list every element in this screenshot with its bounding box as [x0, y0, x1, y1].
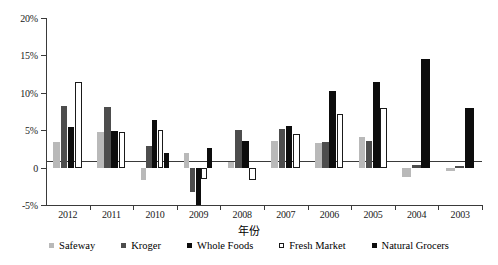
bar-kroger-2005: [366, 141, 373, 167]
legend-swatch-wholefoods-icon: [187, 243, 192, 248]
x-tick: [133, 205, 134, 210]
y-tick-label: 5%: [25, 125, 38, 136]
bar-safeway-2008: [228, 162, 235, 168]
bar-wholefoods-2005: [373, 82, 380, 168]
bar-freshmarket-2005: [380, 108, 387, 168]
y-tick-label: 20%: [20, 13, 38, 24]
y-tick: [41, 93, 46, 94]
legend-item-freshmarket[interactable]: Fresh Market: [279, 240, 345, 251]
bar-kroger-2008: [235, 130, 242, 167]
legend-swatch-safeway-icon: [49, 243, 54, 248]
x-tick: [220, 205, 221, 210]
bar-safeway-2005: [359, 137, 366, 168]
x-tick: [351, 205, 352, 210]
x-tick: [264, 205, 265, 210]
x-tick: [308, 205, 309, 210]
x-tick-label: 2012: [58, 209, 77, 220]
bar-safeway-2009: [184, 153, 189, 167]
x-tick-label: 2010: [145, 209, 164, 220]
bar-kroger-2007: [279, 129, 286, 167]
legend-swatch-kroger-icon: [121, 243, 126, 248]
y-tick: [41, 205, 46, 206]
bar-naturalgrocers-2009: [207, 148, 212, 167]
legend-swatch-naturalgrocers-icon: [372, 243, 377, 248]
bar-safeway-2011: [97, 132, 104, 167]
bar-wholefoods-2012: [68, 127, 75, 167]
bar-freshmarket-2012: [75, 82, 82, 168]
bar-kroger-2011: [104, 107, 111, 168]
legend-item-naturalgrocers[interactable]: Natural Grocers: [372, 240, 449, 251]
bar-freshmarket-2009: [201, 168, 206, 179]
bar-chart: 20%15%10%5%0-5% 201220112010200920082007…: [0, 0, 498, 265]
x-tick-label: 2004: [407, 209, 426, 220]
bar-safeway-2007: [271, 141, 278, 167]
x-tick: [90, 205, 91, 210]
y-tick-label: 15%: [20, 50, 38, 61]
bar-freshmarket-2011: [119, 132, 126, 167]
bar-safeway-2004: [402, 168, 411, 178]
bar-wholefoods-2009: [196, 168, 201, 205]
plot-area: 20%15%10%5%0-5%: [46, 18, 482, 205]
x-tick: [482, 205, 483, 210]
x-tick: [395, 205, 396, 210]
bar-wholefoods-2010: [152, 120, 157, 168]
bar-freshmarket-2007: [293, 134, 300, 168]
y-tick: [41, 130, 46, 131]
bar-safeway-2012: [53, 142, 60, 167]
y-axis-line: [46, 18, 47, 205]
bar-naturalgrocers-2010: [164, 153, 169, 167]
bar-kroger-2010: [146, 146, 151, 168]
x-tick-label: 2011: [102, 209, 121, 220]
legend-label: Fresh Market: [289, 240, 345, 251]
bar-safeway-2010: [141, 168, 146, 180]
y-tick-label: 10%: [20, 87, 38, 98]
y-tick-label: -5%: [22, 200, 38, 211]
legend-item-wholefoods[interactable]: Whole Foods: [187, 240, 253, 251]
x-tick-label: 2003: [451, 209, 470, 220]
legend-swatch-freshmarket-icon: [279, 243, 284, 248]
bar-wholefoods-2004: [421, 59, 430, 167]
bar-freshmarket-2006: [337, 114, 344, 167]
legend-label: Safeway: [59, 240, 95, 251]
legend-item-safeway[interactable]: Safeway: [49, 240, 95, 251]
x-tick: [177, 205, 178, 210]
y-tick: [41, 18, 46, 19]
bar-kroger-2004: [412, 165, 421, 168]
bar-wholefoods-2006: [329, 91, 336, 168]
bar-wholefoods-2007: [286, 126, 293, 167]
x-tick-label: 2008: [233, 209, 252, 220]
bar-kroger-2006: [322, 142, 329, 167]
legend-label: Whole Foods: [197, 240, 253, 251]
bar-wholefoods-2011: [111, 131, 118, 168]
x-tick-label: 2007: [276, 209, 295, 220]
bar-kroger-2012: [61, 106, 68, 167]
y-tick: [41, 55, 46, 56]
bar-freshmarket-2010: [158, 130, 163, 167]
x-tick-label: 2005: [363, 209, 382, 220]
x-tick-label: 2006: [320, 209, 339, 220]
bar-safeway-2006: [315, 143, 322, 168]
legend-label: Natural Grocers: [382, 240, 449, 251]
x-axis-title: 年份: [0, 222, 498, 238]
bar-kroger-2003: [455, 166, 464, 167]
x-tick: [438, 205, 439, 210]
y-tick-label: 0: [33, 162, 38, 173]
bar-freshmarket-2008: [249, 168, 256, 181]
y-tick: [41, 168, 46, 169]
chart-legend: SafewayKrogerWhole FoodsFresh MarketNatu…: [0, 240, 498, 251]
bar-kroger-2009: [190, 168, 195, 192]
bar-wholefoods-2008: [242, 141, 249, 168]
x-tick-label: 2009: [189, 209, 208, 220]
bar-wholefoods-2003: [465, 108, 474, 168]
legend-label: Kroger: [131, 240, 161, 251]
bar-safeway-2003: [446, 168, 455, 172]
legend-item-kroger[interactable]: Kroger: [121, 240, 161, 251]
